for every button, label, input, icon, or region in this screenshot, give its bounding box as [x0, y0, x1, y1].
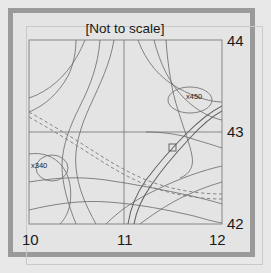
contour-line [29, 40, 76, 112]
track-edge-right [29, 117, 222, 199]
contour-line [29, 40, 85, 98]
contour-line [29, 201, 222, 223]
y-axis-label-43: 43 [227, 124, 244, 139]
contour-map-plot [14, 14, 249, 251]
road-edge-left [128, 106, 222, 224]
x-axis-label-12: 12 [209, 232, 226, 247]
contour-line [146, 132, 222, 148]
x-axis-label-11: 11 [117, 232, 133, 247]
contour-line [166, 40, 193, 178]
track-edge-left [29, 112, 222, 194]
contour-line [138, 40, 222, 102]
spot-height-label-340: x340 [31, 162, 47, 170]
y-axis-label-44: 44 [227, 33, 244, 48]
road-double-line [128, 106, 222, 224]
x-axis-label-10: 10 [22, 232, 39, 247]
y-axis-label-42: 42 [227, 216, 244, 231]
contour-line [29, 178, 222, 204]
spot-height-label-450: x450 [186, 93, 202, 101]
contour-line [106, 166, 222, 224]
contour-line [154, 40, 222, 120]
figure-canvas: [Not to scale] [0, 0, 271, 273]
